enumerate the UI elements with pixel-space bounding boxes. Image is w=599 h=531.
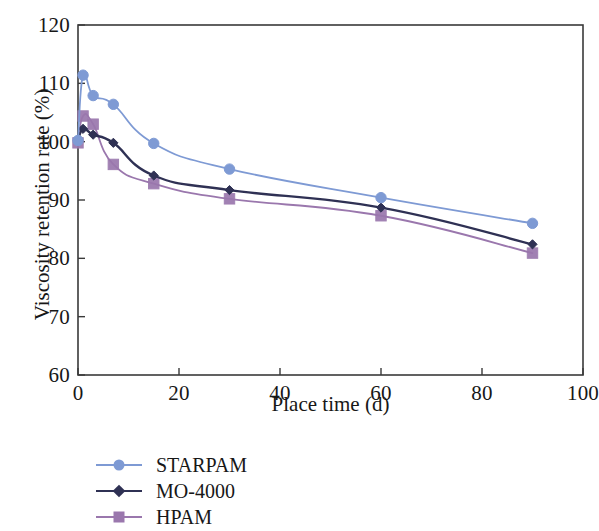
y-axis-title: Viscosity retention rate (%): [30, 35, 55, 375]
legend-label-mo4000: MO-4000: [156, 481, 235, 501]
circle-marker-icon: [114, 460, 125, 471]
y-tick-label: 120: [14, 15, 70, 36]
plot-canvas: [0, 0, 597, 420]
legend-label-hpam: HPAM: [156, 507, 212, 527]
legend-item-mo4000: MO-4000: [96, 478, 396, 504]
chart-legend: STARPAM MO-4000 HPAM: [96, 452, 396, 530]
x-axis-title: Place time (d): [78, 392, 583, 417]
legend-item-starpam: STARPAM: [96, 452, 396, 478]
diamond-marker-icon: [113, 485, 126, 498]
legend-label-starpam: STARPAM: [156, 455, 247, 475]
legend-marker-mo4000: [96, 480, 142, 502]
legend-marker-starpam: [96, 454, 142, 476]
legend-item-hpam: HPAM: [96, 504, 396, 530]
square-marker-icon: [114, 512, 125, 523]
plot-area: 120 110 100 90 80 70 60 0 20 40 60 80 10…: [0, 0, 597, 420]
legend-marker-hpam: [96, 506, 142, 528]
